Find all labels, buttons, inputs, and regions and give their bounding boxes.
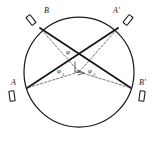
point-label-a: A xyxy=(10,78,16,87)
detector-marker-aprime xyxy=(123,15,133,26)
detector-marker-b xyxy=(26,15,36,26)
dashed-ray-to-bprime xyxy=(79,72,131,88)
arrow-mark-lower xyxy=(78,73,84,75)
chord-b-to-bprime xyxy=(40,28,131,88)
point-label-bprime: B' xyxy=(139,78,146,87)
point-label-aprime: A' xyxy=(112,6,120,15)
angle-subscript-1: 1 xyxy=(62,72,65,77)
point-label-b: B xyxy=(44,6,49,15)
angle-label-phi: φ xyxy=(66,48,70,56)
angle-label-phi-1: φ xyxy=(57,67,61,75)
angle-label-phi-2: φ xyxy=(88,67,92,75)
diagram-canvas: B A' A B' φ φ 1 φ 2 xyxy=(0,0,158,143)
chord-a-to-aprime xyxy=(27,28,118,88)
detector-marker-a xyxy=(9,91,15,102)
optics-circle-diagram: B A' A B' φ φ 1 φ 2 xyxy=(0,0,158,143)
detector-marker-bprime xyxy=(139,91,145,102)
dashed-ray-to-a xyxy=(27,72,79,88)
angle-subscript-2: 2 xyxy=(93,72,96,77)
